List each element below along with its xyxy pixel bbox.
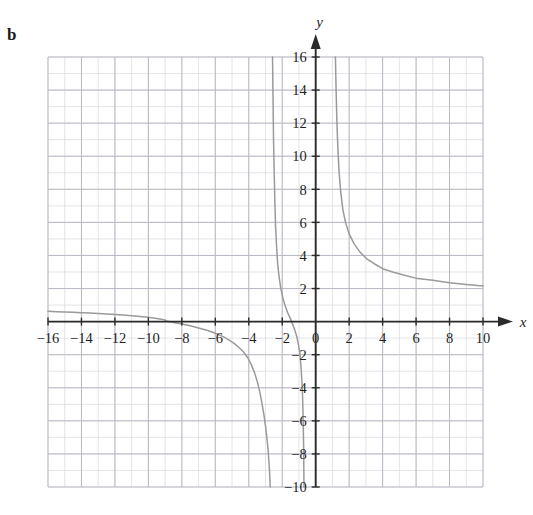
x-tick-label: −8 [174,330,189,346]
x-tick-label: 0 [312,330,319,346]
y-tick-label: 4 [299,248,307,264]
y-tick-label: 12 [292,115,307,131]
y-tick-label: 2 [299,281,306,297]
axes [48,34,513,487]
y-tick-label: 16 [292,49,307,65]
y-tick-label: 10 [292,148,307,164]
x-tick-label: 4 [379,330,387,346]
x-tick-label: −10 [137,330,160,346]
curve-branch-middle [165,321,270,487]
x-tick-label: 6 [412,330,419,346]
y-tick-label: 14 [292,82,307,98]
y-tick-label: 8 [299,182,306,198]
curve-branch-far-left [48,311,165,320]
curve-branch-right [335,57,483,286]
graph-figure: −16−14−12−10−8−6−4−20246810−10−8−6−4−224… [0,0,533,515]
y-tick-label: −8 [291,446,306,462]
y-tick-label: 6 [299,215,306,231]
x-tick-label: −6 [208,330,223,346]
x-tick-label: 8 [446,330,453,346]
axis-titles: xy [314,14,526,330]
x-tick-label: −14 [70,330,93,346]
x-tick-label: 2 [346,330,353,346]
y-tick-label: −6 [291,413,306,429]
x-tick-label: 10 [476,330,491,346]
x-axis-title: x [519,314,527,330]
x-tick-label: −12 [104,330,127,346]
y-tick-label: −10 [284,479,307,495]
x-tick-label: −16 [37,330,60,346]
x-tick-label: −4 [241,330,257,346]
y-tick-label: −2 [291,347,306,363]
x-tick-label: −2 [275,330,290,346]
y-axis-title: y [314,14,323,30]
y-tick-label: −4 [291,380,307,396]
